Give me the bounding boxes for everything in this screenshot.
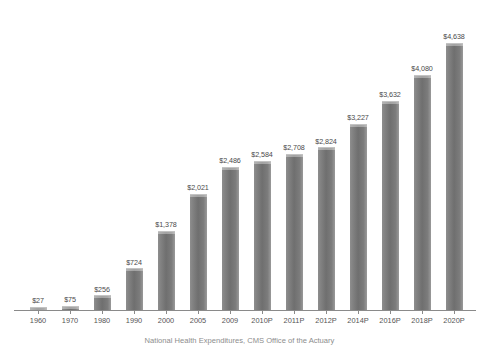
x-axis-tick	[358, 311, 359, 314]
bar-chart-figure: $27$75$256$724$1,378$2,021$2,486$2,584$2…	[0, 0, 479, 350]
bar-group: $4,638	[441, 8, 467, 310]
bar-value-label: $2,708	[283, 144, 304, 151]
bar-group: $2,584	[249, 8, 275, 310]
bar-value-label: $2,486	[219, 157, 240, 164]
bar	[286, 154, 303, 310]
bar-group: $1,378	[153, 8, 179, 310]
x-axis-tick	[390, 311, 391, 314]
x-axis-tick	[166, 311, 167, 314]
x-axis-tick	[326, 311, 327, 314]
x-axis-tick	[70, 311, 71, 314]
bar	[190, 194, 207, 310]
x-axis-tick	[102, 311, 103, 314]
bar	[350, 124, 367, 310]
x-axis-tick	[230, 311, 231, 314]
bar-group: $4,080	[409, 8, 435, 310]
x-axis-tick	[294, 311, 295, 314]
bar-group: $3,227	[345, 8, 371, 310]
bar-value-label: $75	[64, 296, 76, 303]
bar	[126, 268, 143, 310]
bar-group: $2,486	[217, 8, 243, 310]
chart-plot-area: $27$75$256$724$1,378$2,021$2,486$2,584$2…	[22, 8, 470, 310]
bar-group: $27	[25, 8, 51, 310]
x-axis-tick	[262, 311, 263, 314]
bar-value-label: $724	[126, 259, 142, 266]
bar-value-label: $3,632	[379, 91, 400, 98]
bar	[94, 295, 111, 310]
bar	[414, 75, 431, 310]
bar-value-label: $3,227	[347, 114, 368, 121]
bar-group: $724	[121, 8, 147, 310]
bar	[158, 231, 175, 310]
bar-value-label: $4,638	[443, 33, 464, 40]
bar-value-label: $27	[32, 297, 44, 304]
bar-group: $3,632	[377, 8, 403, 310]
bar-value-label: $1,378	[155, 221, 176, 228]
chart-caption: National Health Expenditures, CMS Office…	[0, 337, 479, 345]
x-axis-tick	[422, 311, 423, 314]
x-axis-tick	[198, 311, 199, 314]
bar-value-label: $2,584	[251, 151, 272, 158]
bar	[222, 167, 239, 310]
bar-group: $75	[57, 8, 83, 310]
bar-value-label: $2,824	[315, 138, 336, 145]
bar	[254, 161, 271, 310]
bar-group: $2,021	[185, 8, 211, 310]
bar-value-label: $256	[94, 286, 110, 293]
x-axis-tick	[134, 311, 135, 314]
x-axis-tick	[38, 311, 39, 314]
bar	[382, 101, 399, 310]
bar-group: $256	[89, 8, 115, 310]
x-axis-tick-row: 19601970198019902000200520092010P2011P20…	[22, 311, 470, 329]
x-axis-tick-label: 2020P	[434, 317, 474, 324]
bar	[318, 147, 335, 310]
bar-value-label: $2,021	[187, 184, 208, 191]
bar-group: $2,708	[281, 8, 307, 310]
x-axis-tick	[454, 311, 455, 314]
bar-group: $2,824	[313, 8, 339, 310]
bar	[446, 43, 463, 310]
bar-value-label: $4,080	[411, 65, 432, 72]
